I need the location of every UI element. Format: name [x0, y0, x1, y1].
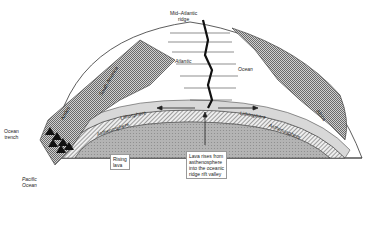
atlantic-label: Atlantic	[175, 58, 191, 64]
pacific-line2: Ocean	[22, 182, 37, 188]
lava-rises-label: Lava rises from asthenosphere into the o…	[186, 151, 227, 179]
rising-lava-line2: lava	[113, 162, 127, 168]
ocean-trench-line2: trench	[4, 134, 19, 140]
pacific-label: Pacific Ocean	[22, 176, 37, 188]
ridge-label-line2: ridge	[170, 16, 197, 22]
lava-rises-line4: ridge rift valley	[189, 171, 224, 177]
ridge-label: Mid–Atlantic ridge	[170, 10, 197, 22]
rising-lava-label: Rising lava	[110, 154, 130, 170]
ocean-label: Ocean	[238, 66, 253, 72]
ocean-trench-label: Ocean trench	[4, 128, 19, 140]
